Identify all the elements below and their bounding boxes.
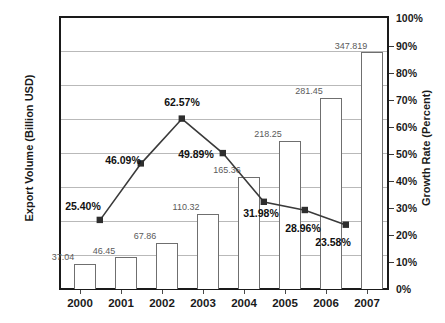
y-right-tickmark-70 [389,100,394,101]
y-right-tick-70: 70% [396,95,440,105]
growth-label-2004: 49.89% [166,149,226,160]
bar-label-2005: 218.25 [247,130,289,139]
bar-2003 [197,214,219,289]
bar-2007 [361,52,383,289]
y-right-tick-50: 50% [396,149,440,159]
x-tickmark-7 [367,290,368,294]
bar-label-2004: 165.36 [206,166,248,175]
y-right-tick-100: 100% [396,13,440,23]
bar-2006 [320,98,342,289]
chart-container: Export Volume (Billion USD) Growth Rate … [0,0,445,323]
x-tickmark-2 [162,290,163,294]
bar-label-2007: 347.819 [327,42,375,51]
bar-label-2002: 67.86 [124,232,166,241]
growth-label-2003: 62.57% [152,97,212,108]
growth-label-2007: 23.58% [303,237,363,248]
bar-label-2000: 37.04 [42,253,84,262]
y-right-tick-10: 10% [396,257,440,267]
y-right-tickmark-10 [389,262,394,263]
bar-label-2003: 110.32 [165,203,207,212]
x-tickmark-3 [203,290,204,294]
x-tickmark-0 [80,290,81,294]
y-axis-right-title: Growth Rate (Percent) [420,53,432,243]
y-right-tickmark-40 [389,181,394,182]
bar-2000 [74,264,96,289]
gridline-300 [61,85,387,86]
y-right-tickmark-60 [389,127,394,128]
growth-label-2001: 25.40% [53,201,113,212]
y-right-tick-80: 80% [396,68,440,78]
y-right-tickmark-20 [389,235,394,236]
y-right-tick-0: 0% [396,284,440,294]
gridline-350 [61,51,387,52]
growth-label-2005: 31.98% [231,208,291,219]
y-right-tick-30: 30% [396,203,440,213]
y-right-tickmark-80 [389,73,394,74]
bar-label-2001: 46.45 [83,247,125,256]
growth-label-2006: 28.96% [273,223,333,234]
y-right-tickmark-50 [389,154,394,155]
y-right-tickmark-30 [389,208,394,209]
x-tickmark-5 [285,290,286,294]
bar-2004 [238,177,260,289]
y-right-tick-40: 40% [396,176,440,186]
x-label-2007: 2007 [337,297,397,310]
y-right-tick-60: 60% [396,122,440,132]
x-tickmark-6 [326,290,327,294]
y-right-tick-90: 90% [396,41,440,51]
x-tickmark-4 [244,290,245,294]
bar-2001 [115,257,137,289]
y-right-tick-20: 20% [396,230,440,240]
y-axis-left-title: Export Volume (Billion USD) [23,53,35,243]
y-right-tickmark-90 [389,46,394,47]
bar-label-2006: 281.45 [288,87,330,96]
bar-2002 [156,243,178,289]
x-tickmark-1 [121,290,122,294]
growth-label-2002: 46.09% [93,155,153,166]
